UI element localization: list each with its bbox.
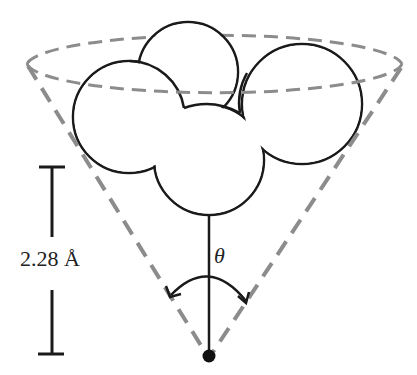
- pivot-point: [203, 350, 216, 363]
- scale-bar-label: 2.28 Å: [20, 246, 80, 272]
- angle-label: θ: [214, 243, 225, 269]
- cone-diagram: [0, 0, 417, 375]
